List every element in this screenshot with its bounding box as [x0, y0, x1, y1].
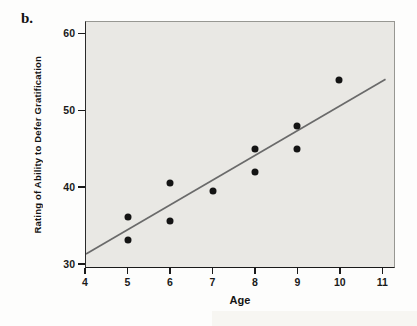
data-point [293, 145, 300, 152]
plot-area [85, 21, 395, 268]
x-tick-label: 11 [370, 276, 394, 289]
data-point [251, 145, 258, 152]
y-tick-label: 40 [49, 181, 75, 194]
scatter-figure: b. Rating of Ability to Defer Gratificat… [0, 0, 417, 326]
y-tick-mark [78, 186, 85, 188]
x-axis-title: Age [85, 294, 395, 306]
x-tick-label: 4 [73, 276, 97, 289]
x-tick-mark [169, 268, 171, 274]
x-tick-label: 8 [243, 276, 267, 289]
x-tick-mark [84, 268, 86, 274]
y-tick-label: 30 [49, 258, 75, 271]
y-axis-title: Rating of Ability to Defer Gratification [28, 21, 46, 268]
y-axis-title-text: Rating of Ability to Defer Gratification [32, 56, 43, 234]
x-tick-mark [339, 268, 341, 274]
x-tick-label: 9 [285, 276, 309, 289]
trend-line-svg [86, 22, 394, 267]
y-tick-label: 50 [49, 104, 75, 117]
data-point [293, 122, 300, 129]
y-tick-mark [78, 263, 85, 265]
data-point [125, 237, 132, 244]
x-tick-mark [382, 268, 384, 274]
data-point [167, 218, 174, 225]
data-point [336, 77, 343, 84]
x-tick-mark [254, 268, 256, 274]
x-tick-label: 7 [200, 276, 224, 289]
data-point [167, 180, 174, 187]
data-point [209, 187, 216, 194]
y-tick-mark [78, 110, 85, 112]
x-tick-label: 10 [328, 276, 352, 289]
y-tick-mark [78, 33, 85, 35]
x-tick-label: 6 [158, 276, 182, 289]
data-point [125, 214, 132, 221]
trend-line [86, 79, 386, 254]
x-tick-mark [212, 268, 214, 274]
y-tick-label: 60 [49, 27, 75, 40]
data-point [251, 168, 258, 175]
x-tick-label: 5 [115, 276, 139, 289]
x-tick-mark [297, 268, 299, 274]
page-edge-shading [212, 311, 417, 326]
x-tick-mark [127, 268, 129, 274]
